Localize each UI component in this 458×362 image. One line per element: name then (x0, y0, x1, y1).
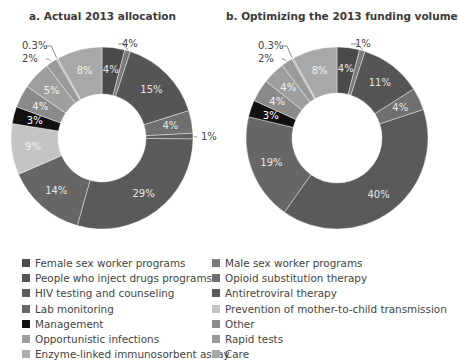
legend-swatch (22, 335, 30, 343)
legend-label: Management (35, 318, 103, 330)
legend-swatch (22, 320, 30, 328)
legend-label: Other (225, 318, 255, 330)
slice-label: 40% (367, 189, 389, 200)
slice-label: 2% (22, 53, 38, 64)
slice-label: 29% (133, 188, 155, 199)
legend-swatch (22, 305, 30, 313)
legend-swatch (212, 335, 220, 343)
slice-label: 8% (77, 65, 93, 76)
legend-swatch (212, 289, 220, 297)
legend-item: Male sex worker programs (212, 256, 363, 271)
slice-label: 0.3% (258, 40, 283, 51)
legend-swatch (22, 289, 30, 297)
slice-label: 4% (162, 120, 178, 131)
legend-label: Opportunistic infections (35, 333, 159, 345)
slice-label: 4% (338, 63, 354, 74)
slice-label: 4% (269, 96, 285, 107)
slice-label: 3% (27, 115, 43, 126)
slice-antiretroviral-therapy (77, 138, 193, 229)
slice-label: 4% (32, 101, 48, 112)
slice-label: 3% (263, 110, 279, 121)
legend-label: Lab monitoring (35, 303, 114, 315)
legend-item: Opioid substitution therapy (212, 271, 367, 286)
legend-label: Female sex worker programs (35, 257, 185, 269)
slice-label: 1% (355, 38, 371, 49)
legend-swatch (212, 350, 220, 358)
legend-item: Enzyme-linked immunosorbent assay (22, 347, 230, 362)
slice-label: 4% (122, 38, 138, 49)
slice-label: 1% (201, 131, 217, 142)
legend-label: Rapid tests (225, 333, 283, 345)
legend-item: Opportunistic infections (22, 332, 159, 347)
legend-swatch (212, 320, 220, 328)
legend-swatch (212, 305, 220, 313)
legend-swatch (22, 274, 30, 282)
legend-item: Antiretroviral therapy (212, 286, 337, 301)
legend-label: Opioid substitution therapy (225, 272, 367, 284)
legend-item: People who inject drugs programs (22, 271, 212, 286)
slice-label: 5% (44, 85, 60, 96)
legend-swatch (212, 259, 220, 267)
donut-b: 4%1%11%4%40%19%3%4%4%2%0.3%8% (246, 38, 428, 229)
legend-label: Enzyme-linked immunosorbent assay (35, 348, 230, 360)
slice-label: 2% (258, 53, 274, 64)
slice-label: 19% (260, 157, 282, 168)
legend-item: Care (212, 347, 249, 362)
slice-label: 8% (312, 65, 328, 76)
legend-swatch (22, 259, 30, 267)
legend-label: Prevention of mother-to-child transmissi… (225, 303, 447, 315)
slice-label: 4% (280, 82, 296, 93)
legend-label: Care (225, 348, 249, 360)
legend-label: People who inject drugs programs (35, 272, 212, 284)
legend-label: HIV testing and counseling (35, 287, 174, 299)
slice-label: 15% (140, 84, 162, 95)
legend-label: Antiretroviral therapy (225, 287, 337, 299)
legend-item: Female sex worker programs (22, 256, 185, 271)
slice-antiretroviral-therapy (284, 110, 428, 229)
legend-swatch (212, 274, 220, 282)
legend-item: Lab monitoring (22, 302, 114, 317)
slice-label: 4% (392, 102, 408, 113)
slice-label: 0.3% (22, 40, 47, 51)
slice-label: 14% (45, 185, 67, 196)
slice-label: 9% (25, 141, 41, 152)
slice-label: 4% (103, 64, 119, 75)
donut-a: 4%4%15%4%1%29%14%9%3%4%5%2%0.3%8% (11, 38, 217, 229)
legend-item: Management (22, 317, 103, 332)
legend-swatch (22, 350, 30, 358)
legend-item: HIV testing and counseling (22, 286, 174, 301)
legend-item: Rapid tests (212, 332, 283, 347)
legend-label: Male sex worker programs (225, 257, 363, 269)
donut-charts: 4%4%15%4%1%29%14%9%3%4%5%2%0.3%8%4%1%11%… (0, 0, 440, 255)
legend-item: Other (212, 317, 255, 332)
legend-item: Prevention of mother-to-child transmissi… (212, 302, 447, 317)
slice-label: 11% (369, 77, 391, 88)
